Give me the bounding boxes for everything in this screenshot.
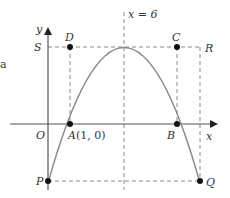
origin-label: O <box>36 129 45 142</box>
point-c <box>174 44 180 50</box>
c-label: C <box>172 31 181 44</box>
point-a <box>67 121 73 127</box>
y-axis-label: y <box>35 23 43 36</box>
stray-text: a <box>0 58 7 71</box>
point-p <box>45 178 51 184</box>
x-axis-label: x <box>206 130 213 143</box>
d-label: D <box>64 31 74 44</box>
point-b <box>174 121 180 127</box>
x-axis-arrow-icon <box>210 120 218 128</box>
s-label: S <box>34 41 42 54</box>
q-label: Q <box>206 176 215 189</box>
p-label: P <box>35 175 44 188</box>
a-label: A(1, 0) <box>67 129 106 142</box>
symmetry-label: x = 6 <box>128 8 157 21</box>
point-d <box>67 44 73 50</box>
b-label: B <box>166 129 175 142</box>
point-q <box>197 178 203 184</box>
y-axis-arrow-icon <box>44 27 52 35</box>
parabola-diagram: y x O S a x = 6 D C R A(1, 0) B P Q <box>0 0 230 198</box>
r-label: R <box>204 42 213 55</box>
axes <box>10 32 212 190</box>
